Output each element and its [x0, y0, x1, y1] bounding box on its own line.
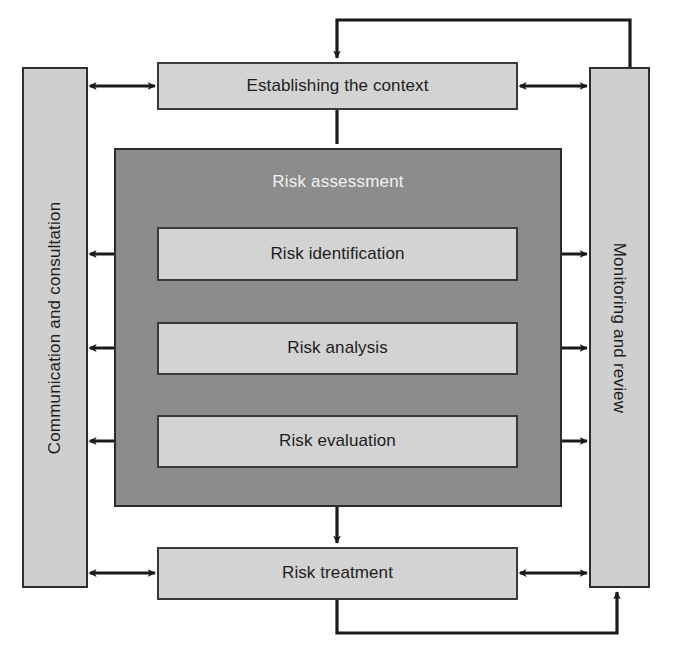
node-risk-evaluation-label: Risk evaluation — [279, 432, 396, 451]
panel-left-label: Communication and consultation — [45, 201, 65, 454]
node-risk-analysis-label: Risk analysis — [287, 339, 388, 358]
node-risk-treatment-label: Risk treatment — [282, 564, 393, 583]
node-risk-identification-label: Risk identification — [270, 245, 404, 264]
connector-monitoring-feedback-top — [337, 20, 630, 67]
node-risk-treatment[interactable]: Risk treatment — [157, 547, 518, 600]
node-risk-analysis[interactable]: Risk analysis — [157, 322, 518, 375]
node-risk-evaluation[interactable]: Risk evaluation — [157, 415, 518, 468]
node-risk-identification[interactable]: Risk identification — [157, 227, 518, 281]
panel-right-label: Monitoring and review — [610, 242, 630, 413]
node-establishing-the-context[interactable]: Establishing the context — [157, 62, 518, 110]
node-establishing-the-context-label: Establishing the context — [247, 77, 429, 96]
risk-assessment-group-title: Risk assessment — [116, 172, 560, 192]
panel-communication-and-consultation[interactable]: Communication and consultation — [22, 67, 88, 588]
panel-monitoring-and-review[interactable]: Monitoring and review — [589, 67, 650, 588]
risk-management-diagram: Risk assessment Communication and consul… — [0, 0, 674, 654]
